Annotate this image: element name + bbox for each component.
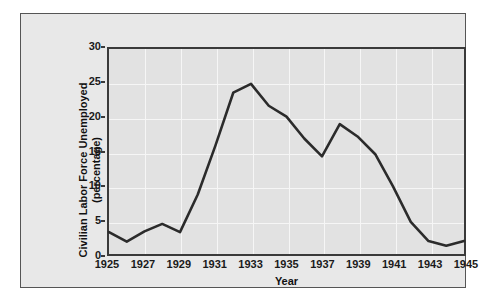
- y-tick-mark: [101, 46, 105, 48]
- y-tick-mark: [101, 81, 105, 83]
- y-tick-label: 25: [77, 76, 101, 87]
- y-tick-mark: [101, 255, 105, 257]
- plot-area: [107, 47, 466, 256]
- x-tick-label: 1945: [444, 258, 483, 270]
- y-tick-mark: [101, 220, 105, 222]
- x-axis-tick-labels: 1925192719291931193319351937193919411943…: [107, 258, 466, 274]
- y-axis-tick-labels: 051015202530: [73, 47, 101, 256]
- y-tick-label: 15: [77, 146, 101, 157]
- y-tick-label: 5: [77, 215, 101, 226]
- y-axis-title-host: Civilian Labor Force Unemployed (percent…: [47, 47, 69, 256]
- data-series-polyline: [109, 84, 464, 246]
- y-tick-label: 20: [77, 111, 101, 122]
- y-tick-mark: [101, 185, 105, 187]
- unemployment-line-chart-figure: Civilian Labor Force Unemployed (percent…: [0, 0, 483, 301]
- y-tick-label: 30: [77, 41, 101, 52]
- plot-inner: [109, 49, 464, 254]
- chart-frame: Civilian Labor Force Unemployed (percent…: [20, 13, 466, 288]
- y-tick-mark: [101, 116, 105, 118]
- y-tick-label: 10: [77, 180, 101, 191]
- x-axis-title: Year: [107, 275, 466, 287]
- y-tick-mark: [101, 151, 105, 153]
- series-line: [109, 49, 464, 254]
